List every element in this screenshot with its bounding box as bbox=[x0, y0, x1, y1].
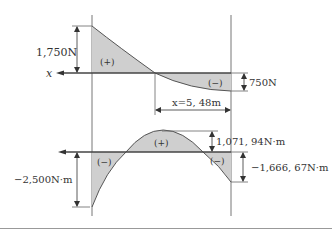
shear-max-label: 1,750N bbox=[36, 46, 77, 59]
shear-axis-arrow-icon bbox=[56, 71, 64, 76]
shear-min-label: 750N bbox=[249, 77, 277, 88]
shear-negative-sign: (−) bbox=[208, 78, 223, 88]
shear-axis-label: x bbox=[46, 67, 53, 80]
beam-diagrams: x 1,750N (+) 750N (−) x=5, 48m −2,500N·m bbox=[0, 0, 332, 232]
moment-peak-label: 1,071, 94N·m bbox=[216, 136, 286, 147]
shear-positive-sign: (+) bbox=[100, 57, 115, 67]
moment-right-negative-sign: (−) bbox=[210, 156, 225, 166]
moment-right-label: −1,666, 67N·m bbox=[251, 162, 329, 173]
moment-diagram: −2,500N·m (−) 1,071, 94N·m (+) −1,666, 6… bbox=[14, 130, 329, 207]
moment-left-label: −2,500N·m bbox=[14, 174, 73, 185]
moment-positive-sign: (+) bbox=[154, 138, 169, 148]
zero-shear-distance-label: x=5, 48m bbox=[172, 97, 221, 108]
moment-left-negative-sign: (−) bbox=[97, 157, 112, 167]
shear-diagram: x 1,750N (+) 750N (−) x=5, 48m bbox=[36, 26, 277, 115]
moment-axis-arrow-icon bbox=[58, 150, 66, 155]
